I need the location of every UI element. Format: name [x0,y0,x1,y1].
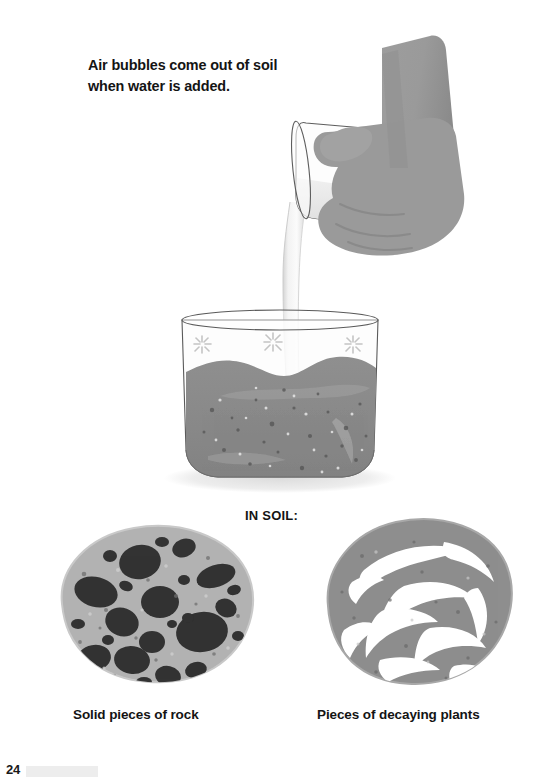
hand-pouring-illustration [270,28,510,278]
beaker-with-soil [160,300,400,500]
sample-plants-illustration [318,512,518,692]
caption-rock: Solid pieces of rock [73,707,199,722]
textbook-page: Air bubbles come out of soil when water … [0,0,543,783]
beaker-rim [182,310,378,330]
hand-silhouette [314,36,465,256]
footer-rule [26,766,98,777]
page-number: 24 [6,762,20,777]
soil-mass [186,357,376,486]
caption-plants: Pieces of decaying plants [317,707,480,722]
sample-rock-illustration [48,518,263,690]
